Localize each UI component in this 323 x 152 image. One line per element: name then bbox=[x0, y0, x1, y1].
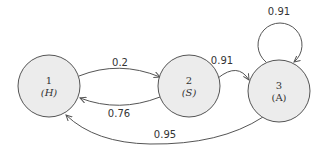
state-diagram: 0.2 0.76 0.91 0.91 0.95 1 (H) 2 (S) 3 (A… bbox=[0, 0, 323, 152]
edge-3-to-3 bbox=[258, 23, 302, 62]
node-3-sublabel: (A) bbox=[271, 92, 286, 103]
edge-label-2-3: 0.91 bbox=[211, 55, 233, 66]
node-1-sublabel: (H) bbox=[41, 87, 58, 98]
edge-2-to-1 bbox=[80, 97, 160, 105]
node-2: 2 (S) bbox=[158, 55, 220, 117]
edge-label-2-1: 0.76 bbox=[108, 108, 130, 119]
node-1: 1 (H) bbox=[18, 55, 80, 117]
node-2-sublabel: (S) bbox=[182, 87, 197, 98]
edge-label-3-3: 0.91 bbox=[268, 6, 290, 17]
edge-2-to-3 bbox=[218, 70, 249, 80]
edge-1-to-2 bbox=[79, 68, 160, 77]
node-2-label: 2 bbox=[186, 75, 192, 86]
node-3: 3 (A) bbox=[248, 60, 310, 122]
node-1-label: 1 bbox=[46, 75, 52, 86]
node-3-label: 3 bbox=[276, 80, 282, 91]
edge-label-3-1: 0.95 bbox=[154, 129, 176, 140]
edge-label-1-2: 0.2 bbox=[112, 57, 128, 68]
